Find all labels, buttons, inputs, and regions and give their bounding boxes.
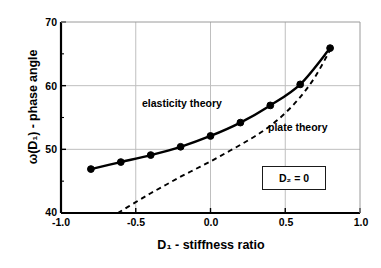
chart-figure: ω(D₁) - phase angle D₁ - stiffness ratio… xyxy=(0,0,381,268)
annotation-elasticity-theory: elasticity theory xyxy=(142,97,222,109)
annotation-plate-theory: plate theory xyxy=(268,121,328,133)
annotation-box-d2: D₂ = 0 xyxy=(262,166,326,190)
plot-area xyxy=(0,0,381,268)
